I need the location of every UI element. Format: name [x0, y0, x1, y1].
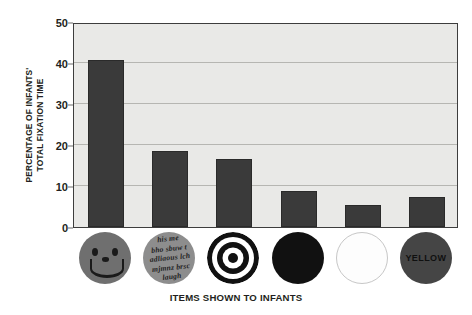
white-circle-glyph: [336, 232, 388, 284]
y-axis-tick-label: 40: [42, 58, 68, 70]
bar-face: [88, 60, 124, 227]
yellow-circle-icon: YELLOW: [398, 230, 454, 286]
smile-mouth-icon: [90, 259, 124, 278]
bullseye-glyph: [207, 232, 259, 284]
y-axis-ticks: 01020304050: [42, 0, 68, 315]
bullseye-icon: [205, 230, 261, 286]
yellow-circle-glyph: YELLOW: [400, 232, 452, 284]
plot-area: [73, 23, 458, 228]
bar-yellow-circle: [409, 197, 445, 227]
bar-scrambled-face: [152, 151, 188, 227]
ring-5: [228, 253, 238, 263]
eye-left-icon: [92, 248, 98, 256]
black-circle-glyph: [272, 232, 324, 284]
black-circle-icon: [270, 230, 326, 286]
white-circle-icon: [334, 230, 390, 286]
bar-chart-figure: PERCENTAGE OF INFANTS' TOTAL FIXATION TI…: [0, 0, 472, 315]
y-axis-title-line-1: PERCENTAGE OF INFANTS': [24, 68, 35, 183]
x-axis-category-icons: his mebho sbuw tadliaous lchmjmnz brscla…: [73, 230, 458, 288]
scrambled-face-icon: his mebho sbuw tadliaous lchmjmnz brscla…: [141, 230, 197, 286]
y-axis-tick-label: 30: [42, 99, 68, 111]
y-axis-tick-label: 10: [42, 181, 68, 193]
y-axis-tick-label: 20: [42, 140, 68, 152]
smiley-face-glyph: [79, 232, 131, 284]
bar-bullseye: [216, 159, 252, 227]
face-icon: [77, 230, 133, 286]
yellow-circle-label: YELLOW: [405, 253, 446, 263]
eye-right-icon: [112, 248, 118, 256]
y-axis-tick-label: 0: [42, 222, 68, 234]
scrambled-face-glyph: his mebho sbuw tadliaous lchmjmnz brscla…: [143, 232, 195, 284]
y-axis-tick-label: 50: [42, 17, 68, 29]
bar-white-circle: [345, 205, 381, 227]
scrambled-face-text: his mebho sbuw tadliaous lchmjmnz brscla…: [143, 232, 195, 284]
bar-black-circle: [281, 191, 317, 227]
bar-series: [74, 24, 457, 227]
x-axis-title: ITEMS SHOWN TO INFANTS: [0, 292, 472, 303]
